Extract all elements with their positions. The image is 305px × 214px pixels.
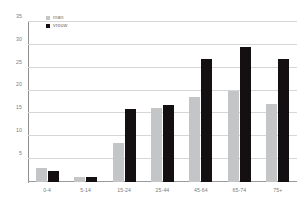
- bar-chart: 5101520253035 0-45-1415-2425-4445-6465-7…: [0, 0, 305, 214]
- bar-man-5-14[interactable]: [74, 177, 85, 182]
- bar-man-65-74[interactable]: [228, 91, 239, 182]
- bar-man-15-24[interactable]: [113, 143, 124, 182]
- bar-man-0-4[interactable]: [36, 168, 47, 182]
- y-axis-tick-labels: 5101520253035: [0, 22, 26, 182]
- legend-label-man: man: [53, 15, 63, 20]
- y-tick-label-20: 20: [16, 83, 22, 88]
- bar-group: [143, 22, 181, 182]
- bar-group: [66, 22, 104, 182]
- legend-swatch-vrouw-icon: [46, 24, 50, 28]
- x-tick-label-25-44: 25-44: [143, 188, 181, 193]
- bar-vrouw-15-24[interactable]: [125, 109, 136, 182]
- legend-label-vrouw: vrouw: [53, 23, 67, 28]
- bar-man-45-64[interactable]: [189, 97, 200, 182]
- legend-swatch-man-icon: [46, 16, 50, 20]
- bar-vrouw-75+[interactable]: [278, 59, 289, 182]
- y-tick-label-30: 30: [16, 37, 22, 42]
- bar-vrouw-0-4[interactable]: [48, 171, 59, 182]
- bar-man-75+[interactable]: [266, 104, 277, 182]
- x-tick-label-0-4: 0-4: [28, 188, 66, 193]
- bar-group: [259, 22, 297, 182]
- x-tick-label-75+: 75+: [259, 188, 297, 193]
- bar-groups: [28, 22, 297, 182]
- y-tick-label-25: 25: [16, 60, 22, 65]
- y-tick-label-5: 5: [19, 151, 22, 156]
- x-tick-label-5-14: 5-14: [66, 188, 104, 193]
- bar-vrouw-5-14[interactable]: [86, 177, 97, 182]
- bar-group: [220, 22, 258, 182]
- x-tick-label-45-64: 45-64: [182, 188, 220, 193]
- legend-item-man[interactable]: man: [46, 15, 67, 20]
- x-tick-label-65-74: 65-74: [220, 188, 258, 193]
- x-axis-category-labels: 0-45-1415-2425-4445-6465-7475+: [28, 188, 297, 193]
- bar-vrouw-65-74[interactable]: [240, 47, 251, 182]
- bar-group: [182, 22, 220, 182]
- plot-area: [28, 22, 297, 182]
- bar-vrouw-25-44[interactable]: [163, 105, 174, 182]
- y-tick-label-35: 35: [16, 14, 22, 19]
- legend: man vrouw: [46, 15, 67, 28]
- bar-man-25-44[interactable]: [151, 108, 162, 183]
- legend-item-vrouw[interactable]: vrouw: [46, 23, 67, 28]
- bar-group: [105, 22, 143, 182]
- bar-vrouw-45-64[interactable]: [201, 59, 212, 182]
- y-tick-label-10: 10: [16, 128, 22, 133]
- x-tick-label-15-24: 15-24: [105, 188, 143, 193]
- bar-group: [28, 22, 66, 182]
- y-tick-label-15: 15: [16, 106, 22, 111]
